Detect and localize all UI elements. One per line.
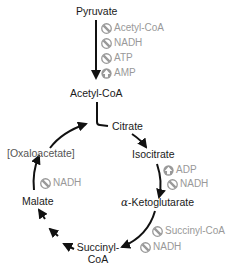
regulator-label: AMP: [114, 67, 136, 79]
regulator-label: Acetyl-CoA: [114, 22, 164, 34]
metabolite-acetyl-coa: Acetyl-CoA: [70, 87, 123, 99]
arrow-fumarate-to-malate-2: [39, 210, 45, 219]
alpha-ketoglutarate-text: -Ketoglutarate: [128, 196, 194, 208]
regulator-label: NADH: [153, 241, 181, 253]
inhibit-icon: [140, 242, 151, 253]
regulator-label: ADP: [176, 164, 197, 176]
regulator-label: ATP: [114, 52, 133, 64]
regulator-label: NADH: [180, 178, 208, 190]
succinyl-coa-line2: CoA: [76, 253, 120, 265]
inhibit-icon: [40, 178, 51, 189]
metabolite-citrate: Citrate: [112, 120, 143, 132]
inhibit-icon: [101, 38, 112, 49]
succinyl-coa-line1: Succinyl-: [76, 241, 120, 253]
regulation-diagram: Pyruvate Acetyl-CoA Citrate Isocitrate α…: [0, 0, 234, 274]
arrow-citrate-to-isocitrate: [132, 134, 146, 147]
arrow-fumarate-to-malate-1: [50, 229, 58, 236]
arrow-succinylcoa-to-fumarate: [64, 244, 74, 249]
metabolite-pyruvate: Pyruvate: [76, 5, 117, 17]
regulator-label: Succinyl-CoA: [165, 225, 225, 237]
regulator-label: NADH: [114, 37, 142, 49]
regulator-idh-nadh: NADH: [167, 178, 208, 190]
arrow-malate-to-oxaloacetate: [34, 156, 39, 190]
metabolite-isocitrate: Isocitrate: [132, 148, 175, 160]
metabolite-succinyl-coa: Succinyl- CoA: [76, 241, 120, 265]
regulator-idh-adp: ADP: [163, 164, 197, 176]
regulator-akgdh-succinyl-coa: Succinyl-CoA: [152, 225, 225, 237]
arrow-isocitrate-to-akg: [157, 164, 161, 197]
activate-arrow-icon: [101, 68, 112, 79]
metabolite-oxaloacetate: [Oxaloacetate]: [7, 147, 75, 159]
regulator-akgdh-nadh: NADH: [140, 241, 181, 253]
regulator-label: NADH: [53, 177, 81, 189]
inhibit-icon: [152, 226, 163, 237]
inhibit-icon: [101, 53, 112, 64]
arrow-oxaloacetate-to-citrate: [50, 124, 86, 148]
inhibit-icon: [167, 179, 178, 190]
metabolite-malate: Malate: [22, 195, 54, 207]
activate-arrow-icon: [163, 165, 174, 176]
metabolite-alpha-ketoglutarate: α-Ketoglutarate: [121, 196, 194, 208]
regulator-pdh-amp: AMP: [101, 67, 136, 79]
regulator-pdh-acetyl-coa: Acetyl-CoA: [101, 22, 164, 34]
regulator-pdh-nadh: NADH: [101, 37, 142, 49]
regulator-mdh-nadh: NADH: [40, 177, 81, 189]
inhibit-icon: [101, 23, 112, 34]
regulator-pdh-atp: ATP: [101, 52, 133, 64]
connector-acetylcoa-to-citrate: [97, 102, 108, 126]
